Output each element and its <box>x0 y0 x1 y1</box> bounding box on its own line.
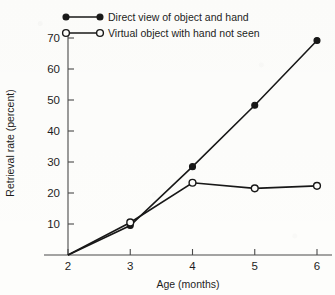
x-tick-label: 4 <box>189 260 196 272</box>
legend-label: Virtual object with hand not seen <box>108 27 260 39</box>
x-tick-label: 5 <box>252 260 258 272</box>
y-tick-label: 60 <box>47 63 60 75</box>
legend-marker <box>63 14 69 20</box>
data-point-marker <box>252 102 258 108</box>
data-point-marker <box>189 179 196 186</box>
y-tick-label: 70 <box>47 32 60 44</box>
series-line-1 <box>68 40 317 255</box>
legend-marker <box>63 30 70 37</box>
x-tick-label: 6 <box>314 260 320 272</box>
data-point-marker <box>251 185 258 192</box>
legend-label: Direct view of object and hand <box>108 11 249 23</box>
y-tick-label: 50 <box>47 94 60 106</box>
y-tick-label: 10 <box>47 218 60 230</box>
x-tick-label: 2 <box>65 260 71 272</box>
x-axis-title: Age (months) <box>156 278 219 290</box>
y-tick-label: 30 <box>47 156 60 168</box>
x-axis-ticks: 23456 <box>65 249 320 272</box>
data-point-marker <box>314 182 321 189</box>
data-point-marker <box>190 164 196 170</box>
data-point-marker <box>127 219 134 226</box>
y-axis-ticks: 10203040506070 <box>47 32 74 230</box>
legend-marker <box>97 14 103 20</box>
legend-marker <box>97 30 104 37</box>
data-point-marker <box>314 37 320 43</box>
y-tick-label: 20 <box>47 187 60 199</box>
chart-canvas: 10203040506070 23456 Age (months) Retrie… <box>0 0 335 295</box>
y-axis-title: Retrieval rate (percent) <box>4 89 16 196</box>
data-series-layer <box>68 37 320 255</box>
x-tick-label: 3 <box>127 260 133 272</box>
chart-legend: Direct view of object and handVirtual ob… <box>63 11 260 39</box>
y-tick-label: 40 <box>47 125 60 137</box>
retrieval-rate-line-chart: 10203040506070 23456 Age (months) Retrie… <box>0 0 335 295</box>
series-line-2 <box>68 183 317 255</box>
